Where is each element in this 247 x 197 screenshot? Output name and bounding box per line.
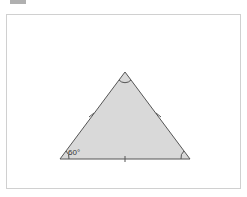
equilateral-triangle (60, 72, 190, 159)
angle-label: 60° (68, 148, 80, 157)
triangle-diagram: 60° (0, 0, 247, 197)
